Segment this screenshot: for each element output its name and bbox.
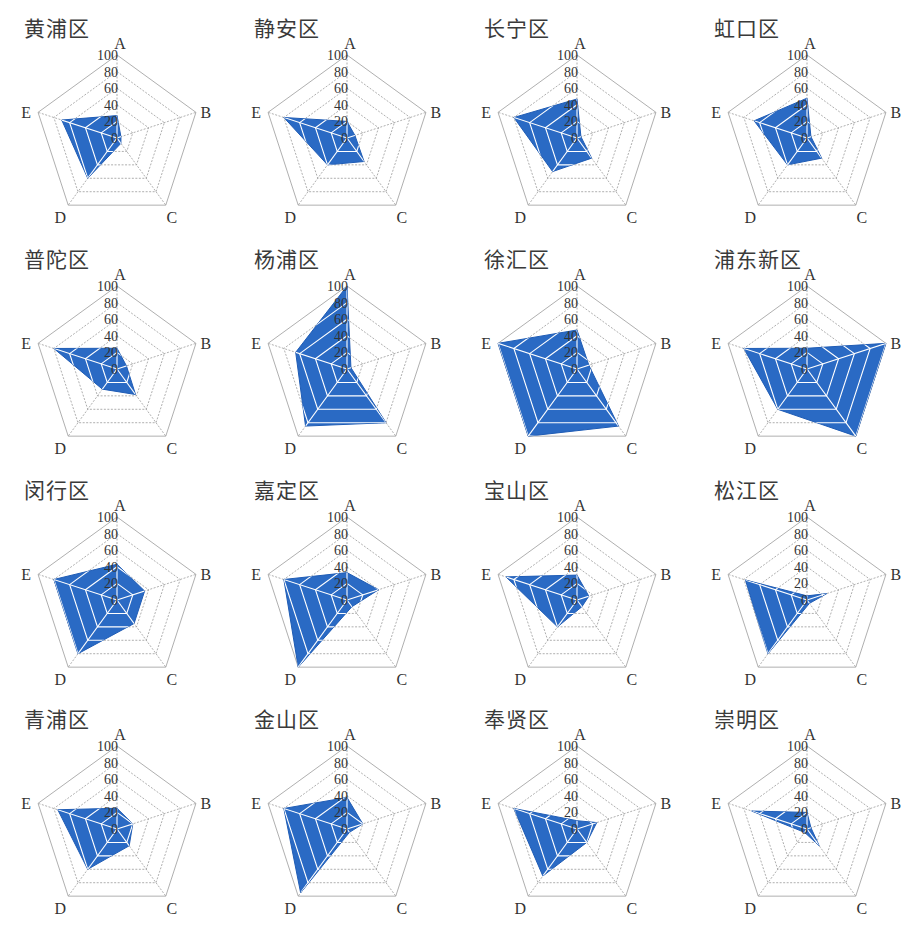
data-area	[284, 117, 364, 164]
tick-label: 40	[334, 329, 348, 344]
tick-label: 0	[571, 362, 578, 377]
axis-label-e: E	[711, 795, 721, 812]
tick-label: 80	[334, 296, 348, 311]
tick-label: 60	[794, 312, 808, 327]
axis-label-b: B	[661, 335, 672, 352]
tick-label: 80	[794, 756, 808, 771]
axis-label-d: D	[54, 209, 66, 226]
axis-label-e: E	[21, 335, 31, 352]
axis-label-d: D	[514, 671, 526, 688]
axis-label-c: C	[396, 671, 407, 688]
data-area	[745, 580, 826, 654]
axis-label-c: C	[396, 440, 407, 457]
tick-label: 60	[564, 81, 578, 96]
axis-label-e: E	[21, 795, 31, 812]
tick-label: 20	[794, 805, 808, 820]
axis-label-d: D	[284, 671, 296, 688]
axis-label-d: D	[514, 209, 526, 226]
axis-label-a: A	[344, 497, 356, 514]
axis-label-e: E	[481, 104, 491, 121]
tick-label: 60	[104, 772, 118, 787]
tick-label: 60	[104, 543, 118, 558]
radar-chart: 020406080100ABCDE静安区	[230, 0, 460, 237]
tick-label: 60	[564, 772, 578, 787]
radar-chart: 020406080100ABCDE虹口区	[690, 0, 920, 237]
data-area	[744, 343, 886, 436]
axis-label-c: C	[626, 900, 637, 917]
data-area	[514, 99, 592, 172]
radar-chart-grid: 020406080100ABCDE黄浦区020406080100ABCDE静安区…	[0, 0, 921, 948]
axis-label-a: A	[574, 726, 586, 743]
tick-label: 0	[571, 822, 578, 837]
tick-label: 80	[104, 65, 118, 80]
radar-chart: 020406080100ABCDE闵行区	[0, 462, 230, 699]
radar-chart: 020406080100ABCDE松江区	[690, 462, 920, 699]
axis-label-c: C	[856, 440, 867, 457]
axis-label-d: D	[744, 209, 756, 226]
axis-label-a: A	[804, 266, 816, 283]
axis-label-b: B	[891, 795, 902, 812]
tick-label: 20	[334, 576, 348, 591]
axis-label-c: C	[856, 671, 867, 688]
tick-label: 40	[564, 560, 578, 575]
tick-label: 80	[564, 756, 578, 771]
tick-label: 20	[564, 805, 578, 820]
radar-chart: 020406080100ABCDE金山区	[230, 691, 460, 928]
tick-label: 0	[111, 822, 118, 837]
tick-label: 20	[104, 114, 118, 129]
tick-label: 40	[794, 329, 808, 344]
axis-label-e: E	[251, 335, 261, 352]
axis-label-d: D	[54, 671, 66, 688]
tick-label: 60	[334, 312, 348, 327]
tick-label: 0	[571, 593, 578, 608]
axis-label-b: B	[891, 104, 902, 121]
axis-label-c: C	[856, 900, 867, 917]
tick-label: 40	[334, 789, 348, 804]
tick-label: 60	[564, 312, 578, 327]
axis-label-a: A	[804, 497, 816, 514]
tick-label: 0	[111, 593, 118, 608]
axis-label-c: C	[396, 900, 407, 917]
axis-label-a: A	[574, 497, 586, 514]
chart-title: 杨浦区	[254, 243, 320, 273]
axis-label-a: A	[114, 726, 126, 743]
axis-label-d: D	[514, 900, 526, 917]
axis-label-a: A	[114, 266, 126, 283]
tick-label: 0	[341, 131, 348, 146]
tick-label: 80	[794, 65, 808, 80]
axis-label-e: E	[251, 104, 261, 121]
chart-title: 金山区	[254, 703, 320, 733]
tick-label: 20	[564, 576, 578, 591]
tick-label: 80	[334, 527, 348, 542]
axis-label-d: D	[514, 440, 526, 457]
axis-label-a: A	[574, 266, 586, 283]
tick-label: 40	[564, 98, 578, 113]
tick-label: 40	[794, 789, 808, 804]
axis-label-e: E	[711, 566, 721, 583]
axis-label-d: D	[284, 900, 296, 917]
tick-label: 60	[334, 81, 348, 96]
axis-label-c: C	[396, 209, 407, 226]
tick-label: 20	[334, 114, 348, 129]
axis-label-a: A	[344, 266, 356, 283]
axis-label-b: B	[661, 104, 672, 121]
chart-title: 嘉定区	[254, 474, 320, 504]
axis-label-a: A	[574, 35, 586, 52]
tick-label: 40	[564, 789, 578, 804]
axis-label-d: D	[54, 440, 66, 457]
tick-label: 60	[794, 543, 808, 558]
tick-label: 60	[564, 543, 578, 558]
axis-label-e: E	[481, 566, 491, 583]
tick-label: 80	[104, 756, 118, 771]
chart-title: 闵行区	[24, 474, 90, 504]
data-area	[284, 573, 379, 668]
axis-label-a: A	[344, 726, 356, 743]
tick-label: 80	[104, 527, 118, 542]
tick-label: 40	[334, 98, 348, 113]
axis-label-e: E	[481, 335, 491, 352]
chart-title: 崇明区	[714, 703, 780, 733]
tick-label: 0	[801, 822, 808, 837]
tick-label: 0	[111, 131, 118, 146]
axis-label-b: B	[201, 566, 212, 583]
axis-label-b: B	[201, 795, 212, 812]
